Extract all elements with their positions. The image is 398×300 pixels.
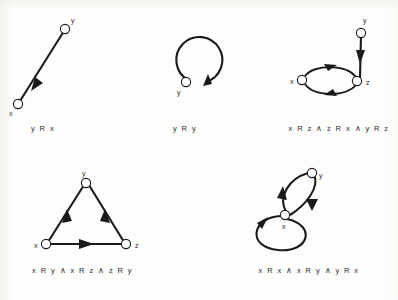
node-z: [352, 76, 361, 85]
arrowhead-x-to-z: [324, 89, 337, 96]
node-z: [121, 239, 130, 248]
edge-y-to-x: [20, 31, 64, 101]
node-x-label: x: [290, 78, 294, 85]
panel-y-r-x: y x y R x: [0, 8, 130, 128]
panel-1-graph: y x: [0, 8, 130, 120]
node-y-label: y: [71, 17, 75, 25]
node-x-label: x: [34, 242, 38, 249]
node-y-label: y: [319, 172, 323, 180]
node-x: [297, 75, 306, 84]
node-x: [13, 99, 22, 108]
edge-x-to-z: [49, 239, 123, 249]
panel-x-r-x-x-r-y-y-r-x: y x x R x ∧ x R y ∧ y R x: [238, 165, 388, 290]
node-z-label: z: [366, 79, 370, 86]
edge-x-to-y: [48, 185, 84, 242]
node-y: [356, 28, 365, 37]
caption-panel-4: x R y ∧ x R z ∧ z R y: [10, 266, 155, 275]
edge-z-to-x: [305, 64, 356, 77]
panel-x-r-y-x-r-z-z-r-y: y x z x R y ∧ x R z ∧ z R y: [18, 170, 163, 290]
arrowhead-y-to-x: [306, 199, 318, 211]
node-x-label: x: [282, 223, 286, 230]
caption-panel-1: y R x: [0, 124, 108, 133]
edge-y-to-z: [356, 35, 365, 78]
panel-x-r-z-z-r-x-y-r-z: y z x x R z ∧ z R x ∧ y R z: [280, 8, 398, 128]
node-z-label: z: [135, 242, 139, 249]
node-x: [41, 239, 50, 248]
node-y-label: y: [177, 89, 181, 97]
node-y: [307, 168, 316, 177]
relation-diagram-figure: y x y R x y y R y: [0, 0, 398, 300]
node-y-label: y: [82, 170, 86, 178]
caption-panel-2: y R y: [130, 124, 240, 133]
arrowhead-x-to-z: [79, 239, 94, 249]
node-y: [60, 24, 69, 33]
edge-x-to-z: [305, 84, 356, 96]
edge-x-to-x: [257, 216, 306, 250]
node-y-label: y: [363, 17, 367, 25]
panel-y-r-y: y y R y: [150, 8, 260, 128]
node-y: [81, 178, 90, 187]
node-x-label: x: [9, 110, 13, 117]
edge-x-to-y: [277, 173, 308, 212]
edge-z-to-y: [89, 185, 124, 242]
panel-3-graph: y z x: [280, 8, 398, 120]
node-y: [181, 77, 190, 86]
panel-4-graph: y x z: [18, 170, 163, 262]
panel-2-graph: y: [150, 8, 260, 120]
panel-5-graph: y x: [238, 165, 388, 265]
node-x: [280, 210, 289, 219]
arrowhead-y-to-z: [356, 50, 365, 64]
caption-panel-5: x R x ∧ x R y ∧ y R x: [234, 266, 384, 275]
caption-panel-3: x R z ∧ z R x ∧ y R z: [280, 124, 398, 133]
